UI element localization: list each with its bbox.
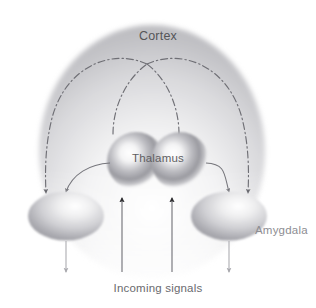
amygdala-left-shape [28, 192, 104, 241]
incoming-signals-label: Incoming signals [0, 282, 316, 294]
brain-pathway-diagram: Cortex Thalamus Amygdala Incoming signal… [0, 0, 316, 308]
thalamus-label: Thalamus [0, 152, 316, 164]
cortex-label: Cortex [0, 29, 316, 43]
amygdala-label: Amygdala [255, 224, 308, 236]
